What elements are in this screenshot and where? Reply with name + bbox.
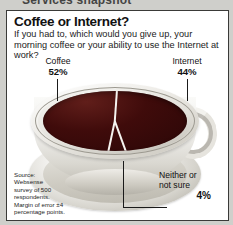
source-line-4: respondents. — [14, 193, 78, 200]
chart-panel: Coffee or Internet? If you had to, which… — [6, 10, 229, 221]
clipped-headline-strip: Services snapshot — [0, 0, 233, 9]
cup-foot-shape — [65, 169, 165, 195]
slice-label-coffee: Coffee 52% — [31, 57, 85, 77]
slice-label-neither: Neither or not sure 4% — [159, 171, 221, 201]
slice-label-internet: Internet 44% — [159, 57, 215, 77]
leader-line-neither-vertical — [123, 161, 124, 208]
page-title: Coffee or Internet? — [14, 14, 129, 29]
source-line-5: Margin of error ±4 — [14, 201, 78, 208]
slice-label-neither-value: 4% — [159, 191, 221, 202]
slice-label-coffee-value: 52% — [31, 67, 85, 78]
leader-line-coffee — [57, 79, 58, 101]
leader-line-neither-horizontal — [123, 207, 167, 208]
leader-line-internet — [187, 79, 188, 101]
chart-panel-inner: Coffee or Internet? If you had to, which… — [7, 11, 228, 220]
slice-label-neither-name-line2: not sure — [159, 181, 221, 191]
pie-chart-coffee-surface — [43, 91, 187, 151]
source-line-6: percentage points. — [14, 208, 78, 215]
source-line-2: Websense — [14, 178, 78, 185]
source-line-3: survey of 500 — [14, 186, 78, 193]
clipped-headline-text: Services snapshot — [22, 0, 131, 7]
slice-label-internet-value: 44% — [159, 67, 215, 78]
source-line-1: Source: — [14, 171, 78, 178]
source-credit: Source: Websense survey of 500 responden… — [14, 171, 78, 215]
infographic-root: Services snapshot Coffee or Internet? If… — [0, 0, 233, 225]
